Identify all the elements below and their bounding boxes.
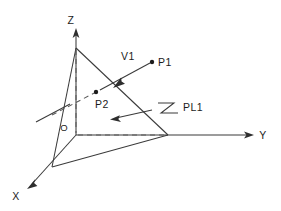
axis-label-z: Z — [68, 14, 75, 26]
plane-pl1-outline — [52, 48, 168, 167]
three-dimensional-plane-diagram: Z Y X O P1 P2 V1 PL1 — [0, 0, 281, 211]
point-label-p2: P2 — [95, 98, 109, 110]
plane-label-pl1: PL1 — [183, 101, 203, 113]
pl1-arrow-line — [116, 110, 152, 118]
point-p1-dot — [150, 60, 154, 64]
pl1-zigzag-leader — [158, 103, 178, 113]
vector-label-v1: V1 — [121, 50, 135, 62]
vector-v1-group — [100, 63, 150, 90]
construction-dashed-lines — [52, 50, 166, 135]
axis-label-x: X — [12, 190, 19, 202]
axis-label-y: Y — [259, 129, 266, 141]
plane-edge-left-to-right — [52, 135, 168, 167]
origin-label: O — [60, 122, 68, 133]
vector-v1-line — [100, 63, 150, 90]
pl1-arrowhead — [110, 115, 121, 122]
plane-trace-extension-line — [36, 104, 70, 122]
diagram-canvas: Z Y X O P1 P2 V1 PL1 — [0, 0, 281, 211]
vector-v1-arrowhead — [113, 77, 125, 88]
point-p2-dot — [94, 90, 98, 94]
point-label-p1: P1 — [158, 56, 172, 68]
